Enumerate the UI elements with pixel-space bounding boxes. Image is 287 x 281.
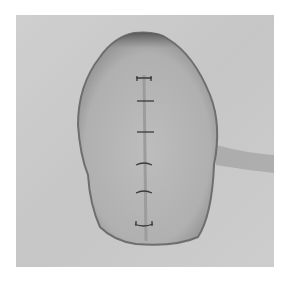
- specimen-photo: [16, 15, 274, 267]
- incision-line: [144, 75, 146, 241]
- specimen-illustration: [16, 15, 274, 267]
